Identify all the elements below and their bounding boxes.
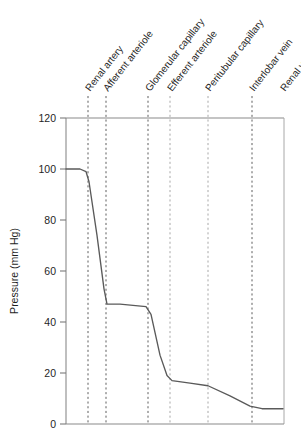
y-tick-label-80: 80 — [44, 214, 56, 226]
category-gridlines — [88, 96, 252, 424]
y-tick-label-40: 40 — [44, 316, 56, 328]
category-labels: Renal artery Afferent arteriole Glomerul… — [83, 16, 301, 93]
y-tick-label-0: 0 — [50, 418, 56, 430]
chart-svg: 120 100 80 60 40 20 0 Pressure (mm Hg) R… — [0, 0, 301, 443]
y-tick-labels: 120 100 80 60 40 20 0 — [38, 112, 56, 430]
y-tick-marks — [60, 118, 66, 424]
pressure-chart-figure: 120 100 80 60 40 20 0 Pressure (mm Hg) R… — [0, 0, 301, 443]
plot-frame — [66, 118, 284, 424]
y-tick-label-100: 100 — [38, 163, 56, 175]
y-tick-label-60: 60 — [44, 265, 56, 277]
y-tick-label-120: 120 — [38, 112, 56, 124]
y-axis-title: Pressure (mm Hg) — [8, 228, 20, 314]
y-tick-label-20: 20 — [44, 367, 56, 379]
pressure-curve — [66, 169, 283, 409]
